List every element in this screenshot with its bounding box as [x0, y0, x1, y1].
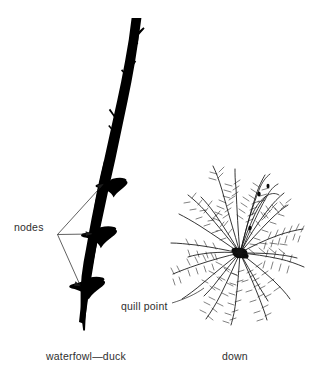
caption-waterfowl-duck: waterfowl—duck: [46, 351, 126, 362]
label-quill-point: quill point: [121, 301, 168, 312]
figure-artwork: [0, 0, 323, 380]
figure-background: [0, 0, 323, 380]
feather-figure: nodes quill point waterfowl—duck down: [0, 0, 323, 380]
caption-down: down: [222, 351, 248, 362]
label-nodes: nodes: [14, 222, 44, 233]
